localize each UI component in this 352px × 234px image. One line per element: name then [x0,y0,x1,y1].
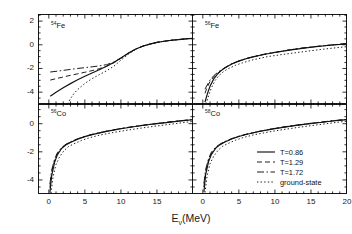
x-tick-label: 10 [111,197,131,206]
x-axis-label-text: Eν(MeV) [171,212,210,224]
curve-t172 [50,38,193,72]
curve-ground-state [51,121,193,193]
legend-line-sample-solid [256,148,276,156]
legend-label: T=0.86 [280,148,303,157]
y-tick-label: 2 [16,16,34,25]
curve-t172 [205,44,347,90]
legend-line-sample-dashed [256,158,276,166]
isotope-element-symbol: Fe [211,21,220,30]
figure-root: Log10[σν (10-42 cm2)] Eν(MeV) 54Fe56Fe56… [0,0,352,234]
y-tick-label: -2 [16,63,34,72]
x-tick-label: 5 [229,197,249,206]
curve-t086 [50,38,193,96]
y-tick-label: -2 [16,147,34,156]
legend-label: ground-state [280,178,322,187]
x-tick-label: 15 [301,197,321,206]
curve-t086 [50,120,193,193]
legend-item: T=0.86 [256,147,322,157]
x-tick-label: 0 [193,197,213,206]
x-tick-label: 5 [75,197,95,206]
plot-panel-bottom-left: 56Co [38,104,193,194]
y-tick-label: -4 [16,175,34,184]
legend-item: ground-state [256,177,322,187]
legend-item: T=1.72 [256,167,322,177]
isotope-element-symbol: Co [57,109,67,118]
legend: T=0.86T=1.29T=1.72ground-state [256,147,322,187]
y-tick-label: 0 [16,40,34,49]
curve-t129 [205,44,347,94]
isotope-element-symbol: Co [211,109,221,118]
x-tick-label: 10 [265,197,285,206]
legend-label: T=1.29 [280,158,303,167]
panel-isotope-label: 56Fe [205,21,219,30]
x-tick-label: 15 [147,197,167,206]
isotope-element-symbol: Fe [57,21,66,30]
y-tick-label: 0 [16,119,34,128]
curve-ground-state [68,38,193,104]
x-axis-label: Eν(MeV) [34,212,348,230]
plot-panel-top-right: 56Fe [192,14,347,104]
curve-t129 [50,38,193,80]
legend-line-sample-dashdot [256,168,276,176]
curve-t129 [50,120,193,188]
x-tick-label: 0 [39,197,59,206]
legend-item: T=1.29 [256,157,322,167]
x-tick-label: 20 [337,197,352,206]
panel-isotope-label: 56Co [51,109,66,118]
legend-label: T=1.72 [280,168,303,177]
curve-t086 [205,44,347,102]
panel-isotope-label: 54Fe [51,21,65,30]
panel-isotope-label: 58Co [205,109,220,118]
y-tick-label: -4 [16,87,34,96]
plot-panel-top-left: 54Fe [38,14,193,104]
legend-line-sample-dotted [256,178,276,186]
curve-ground-state [206,47,347,104]
